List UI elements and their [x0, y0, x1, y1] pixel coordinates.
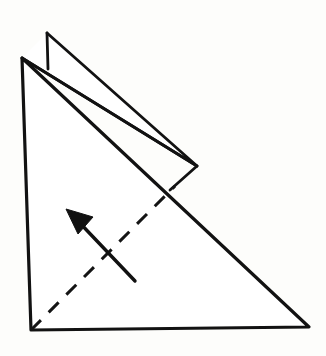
flap-notch-edge	[47, 33, 48, 69]
origami-figure-container: Origami fold step diagram Right triangle…	[0, 0, 326, 356]
origami-fold-diagram: Origami fold step diagram Right triangle…	[0, 0, 326, 356]
